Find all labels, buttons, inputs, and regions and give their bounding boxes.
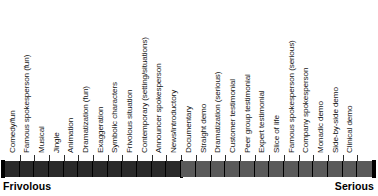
scale-bar-cell (299, 161, 314, 177)
scale-bar-cell (49, 161, 64, 177)
category-label: Slice of life (271, 115, 280, 153)
continuum-scale-bar (5, 161, 372, 177)
category-label: Dramatization (fun) (81, 86, 90, 153)
scale-bar-cell (5, 161, 20, 177)
category-label: Side-by-side demo (330, 87, 339, 153)
category-label: Straight demo (198, 104, 207, 153)
category-label: Expert testimonial (257, 90, 266, 153)
scale-bar-cell (108, 161, 123, 177)
scale-bar-cell (343, 161, 358, 177)
scale-bar-serious-half (181, 161, 372, 177)
category-label: Dramatization (serious) (213, 72, 222, 153)
category-label: Frivolous situation (125, 90, 134, 153)
scale-bar-cell (122, 161, 137, 177)
scale-bar-cell (181, 161, 196, 177)
scale-bar-cell (137, 161, 152, 177)
scale-bar-cell (284, 161, 299, 177)
scale-bar-cell (20, 161, 35, 177)
scale-bar-cell (313, 161, 328, 177)
scale-bar-frivolous-half (5, 161, 181, 177)
scale-bar-cell (93, 161, 108, 177)
category-label: Comedy/fun (7, 110, 16, 153)
scale-bar-cell (240, 161, 255, 177)
category-label: Famous spokesperson (serious) (286, 40, 295, 153)
category-label-band: Comedy/funFamous spokesperson (fun)Music… (0, 0, 378, 155)
scale-bar-right-cap (372, 160, 376, 178)
category-label: Famous spokesperson (fun) (22, 55, 31, 153)
category-label-slot: Clinical demo (350, 0, 364, 155)
scale-bar-cell (152, 161, 167, 177)
scale-bar-cell (34, 161, 49, 177)
category-label: Musical (37, 126, 46, 153)
scale-bar-cell (269, 161, 284, 177)
category-label: Company spokesperson (301, 68, 310, 153)
scale-bar-cell (328, 161, 343, 177)
category-label: Clinical demo (345, 106, 354, 153)
anchor-label-row: Frivolous Serious (3, 180, 374, 194)
scale-bar-cell (255, 161, 270, 177)
category-label: Documentary (183, 106, 192, 153)
category-label: News/introductory (169, 90, 178, 153)
category-label: Announcer spokesperson (154, 63, 163, 153)
scale-bar-cell (211, 161, 226, 177)
category-label: Customer testimonial (227, 79, 236, 153)
scale-bar-cell (64, 161, 79, 177)
frivolous-serious-continuum-chart: Comedy/funFamous spokesperson (fun)Music… (0, 0, 378, 196)
category-label: Contemporary (setting/situations) (139, 37, 148, 153)
scale-bar-cell (357, 161, 372, 177)
category-label: Jingle (51, 132, 60, 153)
scale-bar-cell (78, 161, 93, 177)
category-label: Monadic demo (315, 101, 324, 153)
category-label: Symbolic characters (110, 82, 119, 153)
category-label: Exaggeration (95, 107, 104, 154)
anchor-label-serious: Serious (335, 180, 374, 192)
scale-bar-cell (225, 161, 240, 177)
scale-bar-cell (196, 161, 211, 177)
scale-bar-cell (166, 161, 181, 177)
category-label: Peer group testimonial (242, 74, 251, 153)
anchor-label-frivolous: Frivolous (3, 180, 51, 192)
category-label: Animation (66, 118, 75, 153)
